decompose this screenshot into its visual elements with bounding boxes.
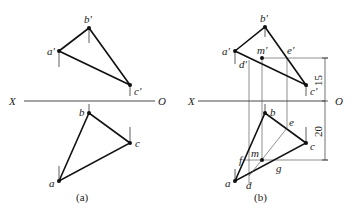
point-a-prime xyxy=(233,49,237,53)
label-a-prime: a' xyxy=(47,45,56,57)
point-b xyxy=(87,111,91,115)
projection-diagram: X O a' b' c' b c a (a) X O xyxy=(0,0,353,212)
axis-x-label: X xyxy=(8,95,17,107)
label-a: a xyxy=(49,177,55,189)
figure-a: X O a' b' c' b c a (a) xyxy=(8,13,166,204)
label-a: a xyxy=(225,177,231,189)
label-b-prime: b' xyxy=(84,13,93,25)
axis-x-label: X xyxy=(187,95,196,107)
point-c-prime xyxy=(128,83,132,87)
figure-b: X O 15 20 a' b' c' m' e' d' xyxy=(187,12,343,204)
caption-b: (b) xyxy=(254,191,267,204)
point-b-prime xyxy=(87,26,91,30)
dimension-20: 20 xyxy=(312,126,324,138)
point-b xyxy=(263,111,267,115)
front-view-triangle xyxy=(235,27,306,85)
label-c-prime: c' xyxy=(310,85,318,97)
label-m: m xyxy=(251,147,259,159)
point-a-prime xyxy=(57,49,61,53)
label-c: c xyxy=(135,137,140,149)
top-view-triangle xyxy=(235,113,306,181)
label-d: d xyxy=(246,179,252,191)
top-view-triangle xyxy=(59,113,130,181)
label-e-prime: e' xyxy=(287,44,295,56)
point-c-prime xyxy=(304,83,308,87)
label-c: c xyxy=(310,140,315,152)
point-b-prime xyxy=(263,25,267,29)
point-c xyxy=(304,141,308,145)
label-e: e xyxy=(289,116,294,128)
caption-a: (a) xyxy=(76,191,89,204)
label-d-prime: d' xyxy=(239,58,248,70)
point-m xyxy=(260,158,264,162)
label-m-prime: m' xyxy=(257,44,268,56)
label-b: b xyxy=(270,106,276,118)
axis-o-label: O xyxy=(335,95,343,107)
point-a xyxy=(57,179,61,183)
front-view-triangle xyxy=(59,28,130,85)
point-m-prime xyxy=(260,56,264,60)
label-b: b xyxy=(79,106,85,118)
point-a xyxy=(233,179,237,183)
label-c-prime: c' xyxy=(134,85,142,97)
label-a-prime: a' xyxy=(222,45,231,57)
label-g: g xyxy=(276,162,282,174)
point-c xyxy=(128,141,132,145)
axis-o-label: O xyxy=(158,95,166,107)
label-b-prime: b' xyxy=(260,12,269,24)
